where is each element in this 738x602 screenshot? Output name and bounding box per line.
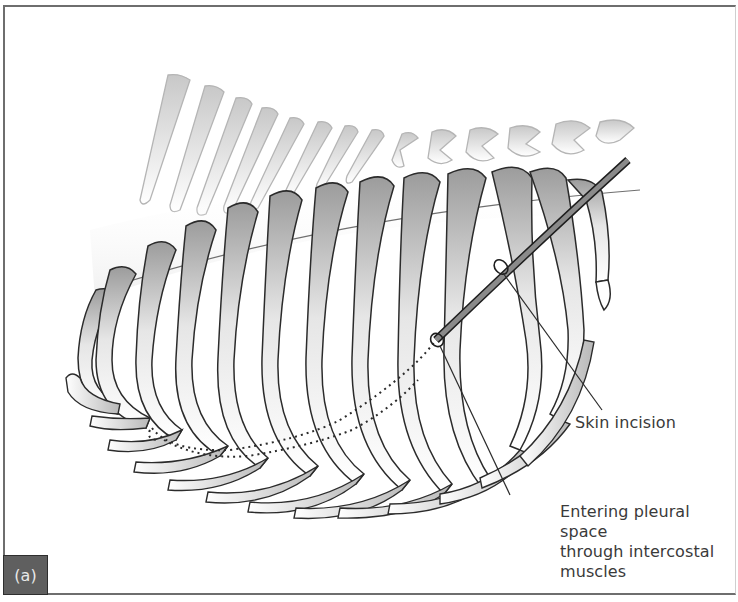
panel-label: (a) (3, 555, 48, 595)
pleural-entry-label: Entering pleural space through intercost… (560, 502, 738, 582)
pleural-entry-line-2: through intercostal muscles (560, 542, 738, 582)
pleural-entry-line-1: Entering pleural space (560, 502, 738, 542)
skin-incision-label: Skin incision (575, 413, 676, 433)
